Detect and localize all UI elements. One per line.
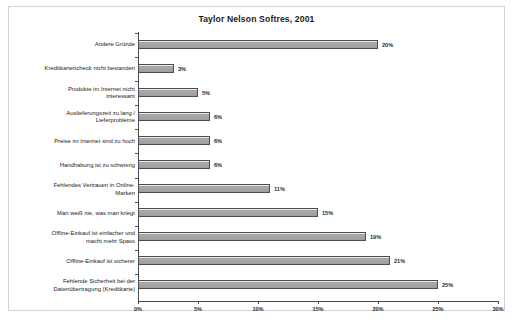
- category-axis-labels: Andere GründeKreditkartencheck nicht bes…: [9, 33, 135, 298]
- category-label-line: interessant: [9, 93, 135, 101]
- x-axis-tick-label: 5%: [194, 306, 202, 312]
- bar-value-label: 19%: [370, 234, 381, 240]
- y-axis-tick: [135, 226, 138, 227]
- category-label-line: Datenübertragung (Kreditkarte): [9, 286, 135, 294]
- category-label-line: macht mehr Spass: [9, 238, 135, 246]
- x-axis-tick-label: 25%: [432, 306, 443, 312]
- chart-page: Taylor Nelson Softres, 2001 Andere Gründ…: [0, 0, 514, 332]
- x-axis-tick: [318, 301, 319, 304]
- x-axis-tick: [498, 301, 499, 304]
- category-label: Fehlendes Vertrauen in Online-Marken: [9, 182, 135, 197]
- category-label: Preise im Internet sind zu hoch: [9, 138, 135, 146]
- category-label: Auslieferungszeit zu lang /Lieferproblem…: [9, 110, 135, 125]
- category-label: Man weiß nie, was man kriegt: [9, 210, 135, 218]
- category-label-line: Kreditkartencheck nicht bestanden: [9, 65, 135, 73]
- category-label: Offline-Einkauf ist einfacher undmacht m…: [9, 230, 135, 245]
- bar-row: 6%: [138, 129, 498, 153]
- bar-value-label: 5%: [202, 90, 210, 96]
- bar-row: 15%: [138, 202, 498, 226]
- category-label-line: Fehlendes Vertrauen in Online-: [9, 182, 135, 190]
- category-label-line: Lieferprobleme: [9, 117, 135, 125]
- x-axis-tick-label: 20%: [372, 306, 383, 312]
- bar-value-label: 3%: [178, 66, 186, 72]
- bar: [138, 136, 210, 145]
- bar-value-label: 25%: [442, 282, 453, 288]
- category-label-line: Produkte im Internet nicht: [9, 86, 135, 94]
- category-label-line: Man weiß nie, was man kriegt: [9, 210, 135, 218]
- y-axis-tick: [135, 202, 138, 203]
- category-label-line: Offline-Einkauf ist sicherer: [9, 258, 135, 266]
- category-label: Kreditkartencheck nicht bestanden: [9, 65, 135, 73]
- bar-value-label: 6%: [214, 114, 222, 120]
- category-label-line: Offline-Einkauf ist einfacher und: [9, 230, 135, 238]
- x-axis-tick: [438, 301, 439, 304]
- bar: [138, 280, 438, 289]
- y-axis-tick: [135, 105, 138, 106]
- x-axis-tick: [138, 301, 139, 304]
- y-axis-tick: [135, 178, 138, 179]
- category-label-line: Auslieferungszeit zu lang /: [9, 110, 135, 118]
- x-axis-tick: [198, 301, 199, 304]
- bar-row: 6%: [138, 105, 498, 129]
- y-axis-tick: [135, 57, 138, 58]
- bar-value-label: 6%: [214, 162, 222, 168]
- bar-value-label: 6%: [214, 138, 222, 144]
- y-axis-tick: [135, 81, 138, 82]
- plot-area: 20%3%5%6%6%6%11%15%19%21%25%: [138, 33, 498, 298]
- bar-row: 6%: [138, 153, 498, 177]
- bar-row: 5%: [138, 81, 498, 105]
- category-label: Andere Gründe: [9, 41, 135, 49]
- bar: [138, 208, 318, 217]
- y-axis-tick: [135, 129, 138, 130]
- y-axis-tick: [135, 33, 138, 34]
- bar-row: 11%: [138, 178, 498, 202]
- y-axis-tick: [135, 250, 138, 251]
- bar-value-label: 15%: [322, 210, 333, 216]
- bar-row: 19%: [138, 226, 498, 250]
- category-label-line: Preise im Internet sind zu hoch: [9, 138, 135, 146]
- x-axis-tick-label: 15%: [312, 306, 323, 312]
- category-label: Offline-Einkauf ist sicherer: [9, 258, 135, 266]
- bar: [138, 64, 174, 73]
- bar: [138, 112, 210, 121]
- x-axis-tick-label: 0%: [134, 306, 142, 312]
- bar: [138, 256, 390, 265]
- category-label-line: Fehlende Sicherheit bei der: [9, 278, 135, 286]
- chart-title: Taylor Nelson Softres, 2001: [9, 14, 504, 24]
- chart-frame: Taylor Nelson Softres, 2001 Andere Gründ…: [8, 6, 505, 311]
- y-axis-tick: [135, 274, 138, 275]
- x-axis-tick-label: 30%: [492, 306, 503, 312]
- category-label: Handhabung ist zu schwierig: [9, 162, 135, 170]
- category-label-line: Handhabung ist zu schwierig: [9, 162, 135, 170]
- bar: [138, 88, 198, 97]
- category-label: Produkte im Internet nichtinteressant: [9, 86, 135, 101]
- bar-value-label: 11%: [274, 186, 285, 192]
- category-label-line: Marken: [9, 190, 135, 198]
- bar-value-label: 21%: [394, 258, 405, 264]
- bar: [138, 40, 378, 49]
- bar: [138, 232, 366, 241]
- bar: [138, 160, 210, 169]
- category-label-line: Andere Gründe: [9, 41, 135, 49]
- x-axis-tick-label: 10%: [252, 306, 263, 312]
- bar-row: 20%: [138, 33, 498, 57]
- x-axis-tick: [378, 301, 379, 304]
- bar-row: 21%: [138, 250, 498, 274]
- bar: [138, 184, 270, 193]
- bar-row: 25%: [138, 274, 498, 298]
- x-axis-tick: [258, 301, 259, 304]
- bar-row: 3%: [138, 57, 498, 81]
- category-label: Fehlende Sicherheit bei derDatenübertrag…: [9, 278, 135, 293]
- bar-value-label: 20%: [382, 42, 393, 48]
- y-axis-tick: [135, 153, 138, 154]
